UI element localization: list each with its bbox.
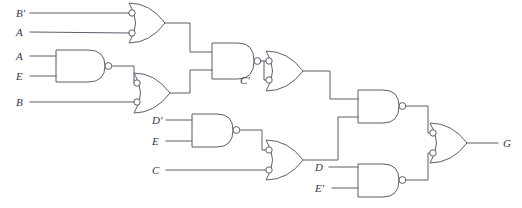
wire-gate6-out: [240, 130, 269, 150]
gate-or-inv-3: [134, 73, 170, 113]
gate-or-inv-7: [266, 140, 303, 180]
wire-gate9-out: [406, 153, 433, 180]
net-label-c-not: C': [240, 74, 250, 86]
output-bubble-icon: [233, 127, 240, 134]
input-label-b: B: [16, 96, 23, 108]
input-bubble-icon: [266, 77, 272, 83]
gate-nand-8: [358, 90, 406, 123]
output-bubble-icon: [399, 103, 406, 110]
wire-gate7-out: [303, 117, 358, 160]
input-label-d-not: D': [151, 114, 163, 126]
wire-gate8-out: [406, 106, 433, 133]
gate-or-inv-10: [430, 123, 467, 163]
output-bubble-icon: [399, 177, 406, 184]
input-label-e-1: E: [15, 70, 23, 82]
wire-gate5-out: [303, 71, 358, 99]
input-bubble-icon: [430, 150, 436, 156]
input-label-c: C: [152, 164, 160, 176]
wire-gate1-out: [165, 23, 212, 52]
input-bubble-icon: [134, 99, 140, 105]
output-bubble-icon: [105, 63, 112, 70]
input-bubble-icon: [266, 58, 272, 64]
logic-circuit-diagram: B' A A E B D' E C D E' C' G: [0, 0, 522, 208]
output-bubble-icon: [254, 58, 261, 65]
gate-nand-6: [192, 114, 240, 147]
wire-gate3-out: [170, 70, 212, 93]
input-label-a-2: A: [15, 50, 23, 62]
input-bubble-icon: [134, 80, 140, 86]
input-label-d: D: [314, 161, 323, 173]
input-bubble-icon: [129, 30, 135, 36]
input-label-e-not: E': [314, 182, 325, 194]
gate-or-inv-5: [266, 51, 303, 91]
gate-nand-2: [56, 50, 112, 82]
gate-nand-4: [212, 43, 261, 79]
input-label-b-not: B': [16, 7, 26, 19]
input-bubble-icon: [266, 147, 272, 153]
gate-or-inv-1: [129, 3, 165, 43]
input-bubble-icon: [430, 130, 436, 136]
input-label-e-2: E: [151, 135, 159, 147]
input-label-a-1: A: [15, 26, 23, 38]
circuit-canvas: B' A A E B D' E C D E' C' G: [0, 0, 522, 208]
gate-nand-9: [358, 164, 406, 197]
input-bubble-icon: [266, 167, 272, 173]
wire-gate2-out: [112, 66, 137, 83]
input-bubble-icon: [129, 10, 135, 16]
wire-a1-to-gate1: [30, 32, 129, 33]
output-label-g: G: [503, 137, 511, 149]
